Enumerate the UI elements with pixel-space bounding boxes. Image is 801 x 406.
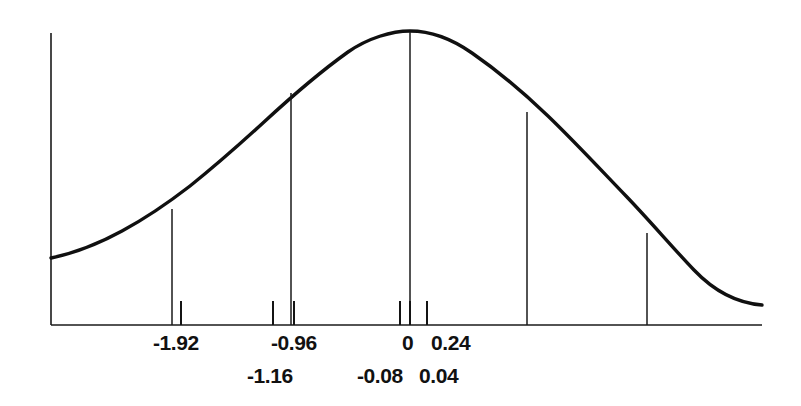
axis-label-neg-1-92: -1.92: [153, 332, 199, 353]
plot-canvas: [0, 0, 801, 406]
axis-label-pos-0-24: 0.24: [431, 332, 470, 353]
axis-label-zero: 0: [402, 332, 413, 353]
axis-label-neg-0-08: -0.08: [357, 365, 403, 386]
axis-label-pos-0-04: 0.04: [419, 365, 458, 386]
axis-label-neg-1-16: -1.16: [247, 365, 293, 386]
normal-distribution-curve: [51, 31, 762, 305]
normal-curve-figure: -1.92 -0.96 0 0.24 -1.16 -0.08 0.04: [0, 0, 801, 406]
axis-label-neg-0-96: -0.96: [271, 332, 317, 353]
